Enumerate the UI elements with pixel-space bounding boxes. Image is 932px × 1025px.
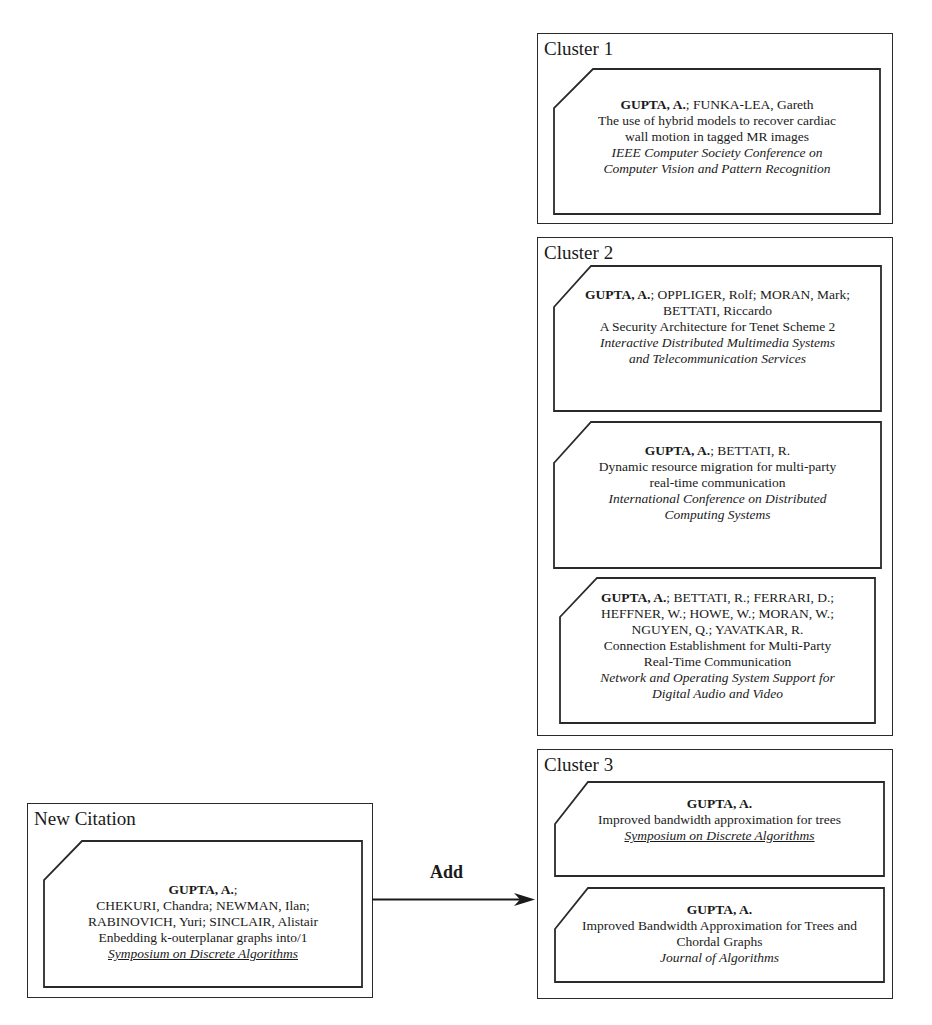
lead-author: GUPTA, A.: [620, 97, 685, 112]
lead-author: GUPTA, A.: [645, 443, 710, 458]
citation-venue: Network and Operating System Support for: [559, 670, 876, 686]
citation-authors: GUPTA, A.; BETTATI, R.: [553, 443, 882, 459]
cluster-2-card-1[interactable]: GUPTA, A.; OPPLIGER, Rolf; MORAN, Mark; …: [553, 265, 882, 412]
citation-venue: Computing Systems: [553, 507, 882, 523]
lead-author: GUPTA, A.: [168, 882, 233, 897]
citation-title: Real-Time Communication: [559, 654, 876, 670]
lead-author: GUPTA, A.: [687, 796, 752, 811]
authors-line: BETTATI, Riccardo: [553, 303, 882, 319]
authors-line: RABINOVICH, Yuri; SINCLAIR, Alistair: [43, 914, 363, 930]
authors-line: NGUYEN, Q.; YAVATKAR, R.: [559, 622, 876, 638]
citation-authors: GUPTA, A.;: [43, 882, 363, 898]
citation-authors: GUPTA, A.: [554, 796, 885, 812]
authors-line: CHEKURI, Chandra; NEWMAN, Ilan;: [43, 898, 363, 914]
lead-author: GUPTA, A.: [585, 287, 650, 302]
citation-authors: GUPTA, A.; OPPLIGER, Rolf; MORAN, Mark;: [553, 287, 882, 303]
new-citation-card[interactable]: GUPTA, A.; CHEKURI, Chandra; NEWMAN, Ila…: [43, 840, 363, 988]
lead-author: GUPTA, A.: [601, 590, 666, 605]
citation-venue-link[interactable]: Symposium on Discrete Algorithms: [43, 946, 363, 962]
citation-title: Dynamic resource migration for multi-par…: [553, 459, 882, 475]
citation-title: Improved bandwidth approximation for tre…: [554, 812, 885, 828]
citation-authors: GUPTA, A.; BETTATI, R.; FERRARI, D.;: [559, 590, 876, 606]
citation-authors: GUPTA, A.: [554, 902, 885, 918]
citation-text: GUPTA, A. Improved bandwidth approximati…: [554, 796, 885, 844]
cluster-2-card-3[interactable]: GUPTA, A.; BETTATI, R.; FERRARI, D.; HEF…: [559, 577, 876, 724]
authors-line: ; BETTATI, R.: [710, 443, 790, 458]
authors-line: ; BETTATI, R.; FERRARI, D.;: [666, 590, 834, 605]
citation-title: real-time communication: [553, 475, 882, 491]
authors-line: ; FUNKA-LEA, Gareth: [686, 97, 814, 112]
cluster-3-card-2[interactable]: GUPTA, A. Improved Bandwidth Approximati…: [554, 887, 885, 983]
citation-title: wall motion in tagged MR images: [553, 129, 881, 145]
citation-text: GUPTA, A.; FUNKA-LEA, Gareth The use of …: [553, 97, 881, 177]
add-label: Add: [430, 862, 463, 883]
cluster-3-card-1[interactable]: GUPTA, A. Improved bandwidth approximati…: [554, 781, 885, 877]
lead-author: GUPTA, A.: [687, 902, 752, 917]
citation-text: GUPTA, A.; BETTATI, R.; FERRARI, D.; HEF…: [559, 590, 876, 702]
authors-line: ;: [234, 882, 238, 897]
citation-title: Chordal Graphs: [554, 934, 885, 950]
citation-venue: Interactive Distributed Multimedia Syste…: [553, 335, 882, 351]
citation-venue: International Conference on Distributed: [553, 491, 882, 507]
authors-line: HEFFNER, W.; HOWE, W.; MORAN, W.;: [559, 606, 876, 622]
citation-venue: and Telecommunication Services: [553, 351, 882, 367]
cluster-2-card-2[interactable]: GUPTA, A.; BETTATI, R. Dynamic resource …: [553, 421, 882, 569]
citation-venue: Computer Vision and Pattern Recognition: [553, 161, 881, 177]
citation-venue: Journal of Algorithms: [554, 950, 885, 966]
citation-text: GUPTA, A.; BETTATI, R. Dynamic resource …: [553, 443, 882, 523]
citation-title: Improved Bandwidth Approximation for Tre…: [554, 918, 885, 934]
citation-venue-link[interactable]: Symposium on Discrete Algorithms: [554, 828, 885, 844]
citation-venue: Digital Audio and Video: [559, 686, 876, 702]
citation-title: Connection Establishment for Multi-Party: [559, 638, 876, 654]
citation-title: A Security Architecture for Tenet Scheme…: [553, 319, 882, 335]
authors-line: ; OPPLIGER, Rolf; MORAN, Mark;: [650, 287, 850, 302]
citation-title: The use of hybrid models to recover card…: [553, 113, 881, 129]
cluster-1-card-1[interactable]: GUPTA, A.; FUNKA-LEA, Gareth The use of …: [553, 68, 881, 215]
cluster-2-title: Cluster 2: [544, 242, 613, 264]
citation-text: GUPTA, A.; OPPLIGER, Rolf; MORAN, Mark; …: [553, 287, 882, 367]
citation-text: GUPTA, A. Improved Bandwidth Approximati…: [554, 902, 885, 966]
citation-text: GUPTA, A.; CHEKURI, Chandra; NEWMAN, Ila…: [43, 882, 363, 962]
cluster-1-title: Cluster 1: [544, 38, 613, 60]
citation-title: Enbedding k-outerplanar graphs into/1: [43, 930, 363, 946]
citation-venue: IEEE Computer Society Conference on: [553, 145, 881, 161]
cluster-3-title: Cluster 3: [544, 754, 613, 776]
arrow-right-icon: [372, 890, 538, 910]
new-citation-title: New Citation: [34, 808, 136, 830]
citation-authors: GUPTA, A.; FUNKA-LEA, Gareth: [553, 97, 881, 113]
